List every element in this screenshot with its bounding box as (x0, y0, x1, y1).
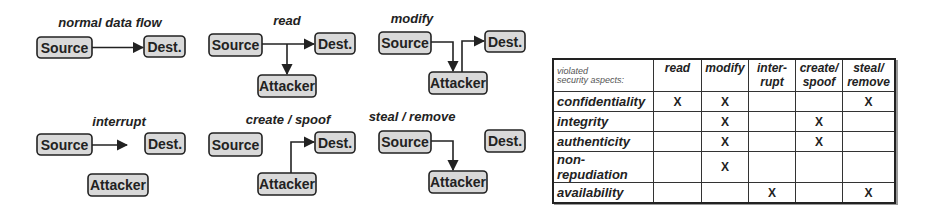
forward-arrow (462, 41, 484, 72)
diagram-title: steal / remove (369, 109, 456, 124)
svg-text:Source: Source (41, 40, 89, 56)
table-cell (843, 152, 896, 183)
table-row: availability X X (553, 183, 895, 204)
source-node: Source (209, 133, 262, 156)
svg-text:Dest.: Dest. (318, 36, 352, 52)
svg-text:Attacker: Attacker (90, 177, 147, 193)
dest-node: Dest. (485, 130, 525, 152)
attacker-node: Attacker (258, 75, 316, 97)
diagram-title: create / spoof (246, 112, 332, 127)
svg-text:Source: Source (381, 35, 429, 51)
table-cell: X (654, 92, 702, 112)
svg-text:Attacker: Attacker (259, 176, 316, 192)
table-cell: X (702, 92, 749, 112)
diagram-steal-remove: steal / remove Source Dest. Attacker (369, 109, 525, 193)
source-node: Source (37, 134, 92, 155)
security-aspects-table: violated security aspects: read modify i… (552, 58, 896, 204)
svg-text:Source: Source (41, 137, 89, 153)
table-cell (749, 112, 796, 132)
source-node: Source (379, 32, 431, 54)
diagram-modify: modify Source Dest. Attacker (379, 11, 525, 94)
diagram-title: interrupt (92, 114, 146, 129)
svg-text:Source: Source (212, 37, 260, 53)
table-cell: X (702, 152, 749, 183)
svg-text:Attacker: Attacker (430, 174, 487, 190)
intercept-arrow (431, 42, 453, 71)
diagram-title: modify (391, 11, 434, 26)
source-node: Source (379, 131, 431, 153)
table-cell (654, 132, 702, 152)
svg-text:Attacker: Attacker (259, 78, 316, 94)
table-cell (654, 183, 702, 204)
attacker-node: Attacker (429, 171, 487, 193)
steal-arrow (431, 141, 453, 170)
table-cell: X (843, 183, 896, 204)
table-cell (843, 112, 896, 132)
source-node: Source (209, 34, 262, 56)
diagram-title: read (273, 13, 302, 28)
table-row: authenticity X X (553, 132, 895, 152)
svg-text:Source: Source (381, 134, 429, 150)
dest-node: Dest. (145, 133, 185, 154)
spoof-arrow (291, 142, 314, 173)
column-header-interrupt: inter-rupt (749, 59, 796, 92)
table-cell (796, 92, 843, 112)
aspect-label: non-repudiation (553, 152, 654, 183)
aspect-label: confidentiality (553, 92, 654, 112)
attacker-node: Attacker (429, 72, 487, 94)
column-header-create-spoof: create/spoof (796, 59, 843, 92)
svg-text:Dest.: Dest. (488, 133, 522, 149)
dest-node: Dest. (485, 31, 525, 52)
diagram-normal-data-flow: normal data flow Source Dest. (37, 15, 185, 58)
column-header-read: read (654, 59, 702, 92)
dest-node: Dest. (315, 132, 355, 153)
table-cell (796, 183, 843, 204)
aspect-label: authenticity (553, 132, 654, 152)
svg-text:Dest.: Dest. (318, 135, 352, 151)
table-cell: X (843, 92, 896, 112)
svg-text:Source: Source (212, 137, 260, 153)
table-cell: X (796, 132, 843, 152)
table-cell (654, 152, 702, 183)
diagram-interrupt: interrupt Source Dest. Attacker (37, 114, 185, 196)
diagram-title: normal data flow (58, 15, 162, 30)
aspect-label: integrity (553, 112, 654, 132)
attacker-node: Attacker (88, 174, 148, 196)
table-cell (796, 152, 843, 183)
svg-text:Dest.: Dest. (488, 34, 522, 50)
table-header-row: violated security aspects: read modify i… (553, 59, 895, 92)
aspect-label: availability (553, 183, 654, 204)
dest-node: Dest. (144, 36, 185, 57)
dest-node: Dest. (315, 33, 355, 54)
table-cell (749, 92, 796, 112)
svg-text:Attacker: Attacker (430, 75, 487, 91)
table-cell: X (702, 112, 749, 132)
column-header-modify: modify (702, 59, 749, 92)
table-cell (702, 183, 749, 204)
table-row: confidentiality X X X (553, 92, 895, 112)
table-corner-label: violated security aspects: (553, 59, 654, 92)
source-node: Source (37, 37, 92, 58)
table-cell: X (702, 132, 749, 152)
svg-text:Dest.: Dest. (147, 39, 181, 55)
svg-text:Dest.: Dest. (148, 136, 182, 152)
table-cell: X (796, 112, 843, 132)
diagram-read: read Source Dest. Attacker (209, 13, 355, 97)
column-header-steal-remove: steal/remove (843, 59, 896, 92)
table-cell (749, 152, 796, 183)
table-row: non-repudiation X (553, 152, 895, 183)
table-cell: X (749, 183, 796, 204)
attacker-node: Attacker (258, 173, 316, 195)
table-row: integrity X X (553, 112, 895, 132)
table-cell (654, 112, 702, 132)
table-cell (749, 132, 796, 152)
table-cell (843, 132, 896, 152)
diagram-create-spoof: create / spoof Source Dest. Attacker (209, 112, 355, 195)
